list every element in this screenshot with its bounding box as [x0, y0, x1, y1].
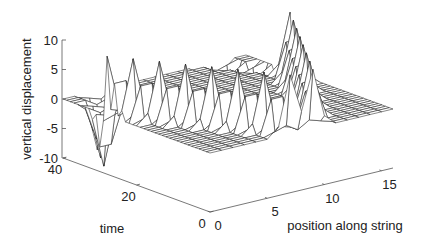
- time-tick-mark: [137, 184, 140, 185]
- z-axis-title: vertical displacement: [19, 38, 34, 160]
- position-axis-line: [210, 168, 393, 212]
- position-axis-title: position along string: [287, 218, 403, 233]
- position-tick-label: 10: [325, 191, 339, 206]
- position-tick-label: 15: [382, 177, 396, 192]
- time-ticks: 02040: [48, 157, 214, 231]
- time-tick-mark: [210, 211, 213, 212]
- position-tick-label: 5: [272, 204, 279, 219]
- time-tick-label: 0: [198, 216, 205, 231]
- time-axis-title: time: [100, 221, 125, 236]
- mesh-plot: 1050-5-10 02040 051015 vertical displace…: [0, 0, 425, 249]
- position-tick-mark: [208, 211, 210, 212]
- time-tick-label: 40: [48, 162, 62, 177]
- surface-mesh: [63, 12, 393, 166]
- position-tick-mark: [265, 197, 267, 198]
- z-tick-label: 10: [44, 33, 58, 48]
- position-tick-mark: [322, 184, 324, 185]
- position-tick-label: 0: [214, 218, 221, 233]
- z-tick-label: -5: [46, 121, 58, 136]
- time-tick-label: 20: [121, 189, 135, 204]
- z-tick-label: 0: [51, 92, 58, 107]
- z-tick-label: 5: [51, 62, 58, 77]
- position-tick-mark: [379, 170, 381, 171]
